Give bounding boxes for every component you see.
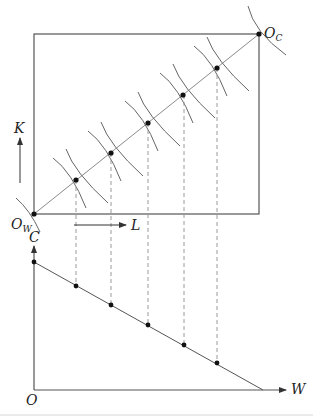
oc-label: OC: [264, 25, 282, 43]
origin-label: O: [26, 392, 38, 408]
c-axis-label: C: [29, 229, 40, 245]
w-axis-label: W: [291, 381, 307, 397]
l-label: L: [130, 217, 140, 233]
k-label: K: [13, 120, 26, 136]
isoquant-pairs: [53, 37, 249, 208]
projection-lines: [76, 68, 217, 363]
edgeworth-ppf-diagram: K L OW OC C W O: [0, 0, 313, 418]
